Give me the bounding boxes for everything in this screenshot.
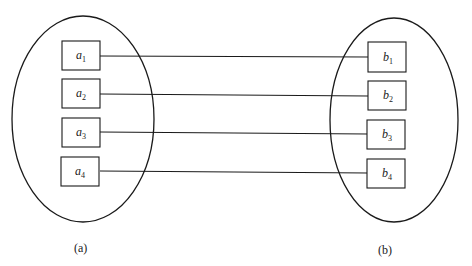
- edges: [100, 56, 368, 173]
- edge-a4-b4: [100, 171, 368, 173]
- caption-a: (a): [74, 241, 87, 255]
- caption-b: (b): [378, 243, 392, 257]
- mapping-diagram: a1 a2 a3 a4 b1 b2 b3 b4 (a) (b): [0, 0, 472, 266]
- edge-a2-b2: [100, 94, 368, 96]
- edge-a3-b3: [100, 132, 368, 134]
